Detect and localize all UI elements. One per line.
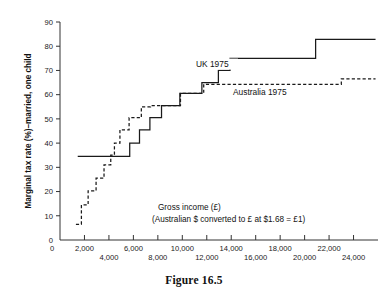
y-axis-tick-label: 60 [45, 90, 53, 99]
x-axis-tick-label: 12,000 [195, 253, 218, 262]
x-axis-tick-label: 18,000 [269, 244, 292, 253]
annotation-group: Gross income (£)(Australian $ converted … [152, 203, 305, 224]
y-axis-tick-label: 30 [45, 163, 53, 172]
x-axis-tick-label: 22,000 [317, 244, 340, 253]
series-line-uk-1975 [78, 39, 376, 156]
annotation-gross-income: Gross income (£) [158, 203, 221, 212]
x-axis-tick-label: 16,000 [244, 253, 267, 262]
y-axis-tick-label: 80 [45, 42, 53, 51]
x-axis-tick-label: 8,000 [148, 253, 167, 262]
x-axis-origin-label: 0 [50, 244, 54, 253]
figure-caption: Figure 16.5 [0, 274, 388, 286]
series-labels-group: UK 1975Australia 1975 [194, 59, 297, 98]
x-axis-tick-label: 24,000 [342, 253, 365, 262]
y-axis-title-group: Marginal tax rate (%)–married, one child [24, 53, 33, 208]
y-axis-tick-label: 20 [45, 187, 53, 196]
x-axis-tick-label: 6,000 [124, 244, 143, 253]
y-axis-tick-label: 50 [45, 115, 53, 124]
annotation-conversion-rate: (Australian $ converted to £ at $1.68 = … [152, 215, 305, 224]
y-axis-tick-label: 70 [45, 66, 53, 75]
series-label-uk-1975: UK 1975 [196, 59, 229, 69]
y-axis-tick-label: 90 [45, 18, 53, 27]
series-line-australia-1975 [76, 79, 376, 224]
x-axis-tick-label: 20,000 [293, 253, 316, 262]
chart-canvas: 0102030405060708090 02,0004,0006,0008,00… [0, 0, 388, 290]
x-axis-tick-label: 2,000 [75, 244, 94, 253]
x-axis-tick-label: 10,000 [171, 244, 194, 253]
x-axis-tick-label: 14,000 [220, 244, 243, 253]
figure-container: 0102030405060708090 02,0004,0006,0008,00… [0, 0, 388, 290]
y-axis: 0102030405060708090 [45, 18, 60, 245]
x-axis: 02,0004,0006,0008,00010,00012,00014,0001… [50, 235, 378, 262]
y-axis-tick-label: 10 [45, 212, 53, 221]
y-axis-title: Marginal tax rate (%)–married, one child [24, 53, 33, 208]
y-axis-tick-label: 40 [45, 139, 53, 148]
series-label-australia-1975: Australia 1975 [233, 87, 287, 97]
x-axis-tick-label: 4,000 [99, 253, 118, 262]
